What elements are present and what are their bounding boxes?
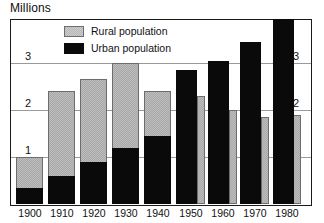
bar-rural-1960 — [229, 110, 237, 204]
legend-label-rural: Rural population — [91, 26, 167, 37]
x-axis-labels: 190019101920193019401950196019701980 — [10, 206, 312, 222]
y-tick-right-2: 2 — [293, 98, 299, 109]
chart-title: Millions — [10, 1, 51, 15]
legend-swatch-urban-icon — [64, 43, 84, 54]
bar-urban-1930 — [112, 148, 139, 204]
bar-urban-1950 — [176, 70, 197, 204]
y-tick-left-1: 1 — [25, 145, 31, 156]
y-tick-right-3: 3 — [293, 51, 299, 62]
bar-rural-1950 — [197, 96, 205, 204]
bar-rural-1970 — [261, 117, 269, 204]
legend-swatch-rural-icon — [64, 26, 84, 37]
x-tick-1980: 1980 — [267, 208, 307, 219]
bar-urban-1900 — [16, 188, 43, 204]
bar-urban-1960 — [208, 61, 229, 204]
legend-label-urban: Urban population — [91, 43, 171, 54]
chart-legend: Rural population Urban population — [64, 24, 171, 58]
bar-urban-1980 — [273, 19, 294, 205]
bar-urban-1970 — [240, 42, 261, 204]
bar-rural-1980 — [293, 115, 301, 204]
bar-urban-1920 — [80, 162, 107, 204]
y-tick-left-2: 2 — [25, 98, 31, 109]
bar-urban-1940 — [144, 136, 171, 204]
legend-item-urban: Urban population — [64, 41, 171, 55]
bar-urban-1910 — [48, 176, 75, 204]
chart-screenshot: Millions 123 123 Rural population Urban … — [0, 0, 324, 223]
y-tick-left-3: 3 — [25, 51, 31, 62]
legend-item-rural: Rural population — [64, 24, 171, 38]
